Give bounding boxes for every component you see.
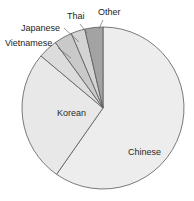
pie-wedge-group	[22, 27, 184, 189]
pie-label-japanese: Japanese	[21, 23, 60, 33]
pie-label-vietnamese: Vietnamese	[5, 38, 52, 48]
pie-label-thai: Thai	[67, 11, 85, 21]
pie-chart-figure: ChineseKoreanVietnameseJapaneseThaiOther	[0, 0, 194, 201]
pie-chart-svg: ChineseKoreanVietnameseJapaneseThaiOther	[0, 0, 194, 201]
pie-label-korean: Korean	[57, 108, 86, 118]
pie-label-other: Other	[98, 7, 121, 17]
pie-label-chinese: Chinese	[128, 147, 161, 157]
